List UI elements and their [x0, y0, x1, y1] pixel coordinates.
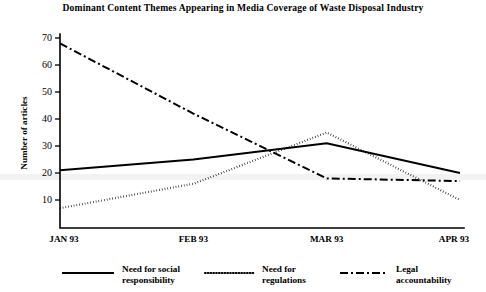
- y-tick-label: 30: [42, 140, 52, 151]
- y-tick-label: 20: [42, 167, 52, 178]
- y-tick-label: 50: [42, 86, 52, 97]
- x-tick-label: FEB 93: [179, 234, 209, 244]
- legend-label-0-line2: responsibility: [122, 275, 175, 285]
- x-tick-label: JAN 93: [49, 234, 79, 244]
- data-series-group: [60, 43, 460, 208]
- legend-label-1-line2: regulations: [262, 275, 306, 285]
- legend-label-1-line1: Need for: [262, 264, 296, 274]
- x-axis-ticks: JAN 93FEB 93MAR 93APR 93: [49, 234, 469, 244]
- y-tick-label: 40: [42, 113, 52, 124]
- axis-lines: [60, 34, 464, 228]
- y-tick-label: 60: [42, 59, 52, 70]
- series-line-0: [60, 143, 460, 173]
- series-line-1: [60, 133, 460, 209]
- x-tick-label: APR 93: [439, 234, 470, 244]
- x-tick-label: MAR 93: [310, 234, 344, 244]
- legend-label-0-line1: Need for social: [122, 264, 180, 274]
- y-tick-label: 70: [42, 32, 52, 43]
- line-chart-plot: 10203040506070 JAN 93FEB 93MAR 93APR 93 …: [0, 0, 486, 292]
- chart-legend: Need for socialresponsibilityNeed forreg…: [62, 264, 452, 285]
- legend-label-2-line2: accountability: [396, 275, 452, 285]
- chart-figure: Dominant Content Themes Appearing in Med…: [0, 0, 486, 292]
- y-tick-label: 10: [42, 194, 52, 205]
- y-axis-label: Number of articles: [19, 96, 29, 170]
- legend-label-2-line1: Legal: [396, 264, 418, 274]
